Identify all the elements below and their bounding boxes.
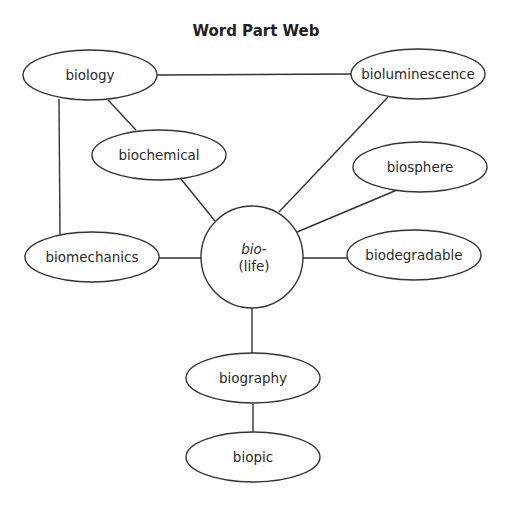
node-label: biochemical [118, 147, 199, 163]
node-biochemical[interactable]: biochemical [92, 130, 226, 180]
center-meaning-label: (life) [238, 258, 269, 274]
node-biodegradable[interactable]: biodegradable [347, 230, 481, 280]
node-label: biology [65, 67, 114, 83]
edge-biology-bioluminescence [157, 74, 351, 75]
diagram-title: Word Part Web [192, 22, 319, 40]
node-center[interactable]: bio- (life) [201, 206, 303, 308]
node-bioluminescence[interactable]: bioluminescence [351, 49, 485, 99]
node-label: biography [219, 370, 287, 386]
node-biopic[interactable]: biopic [186, 432, 320, 482]
center-root-label: bio- [241, 241, 267, 257]
node-biography[interactable]: biography [186, 353, 320, 403]
edge-biology-biochemical [108, 100, 136, 130]
node-label: biosphere [387, 159, 454, 175]
node-biosphere[interactable]: biosphere [353, 142, 487, 192]
circle-shape [201, 206, 303, 308]
node-label: biopic [233, 449, 273, 465]
node-label: biodegradable [365, 247, 462, 263]
edge-biology-biomechanics [59, 99, 60, 235]
edge-biosphere-center [297, 190, 397, 232]
node-label: bioluminescence [361, 66, 475, 82]
edge-biochemical-center [181, 179, 215, 221]
word-part-web-diagram: Word Part Web biology bioluminescence bi… [0, 0, 512, 509]
node-biomechanics[interactable]: biomechanics [25, 232, 159, 282]
node-biology[interactable]: biology [23, 50, 157, 100]
node-label: biomechanics [45, 249, 138, 265]
